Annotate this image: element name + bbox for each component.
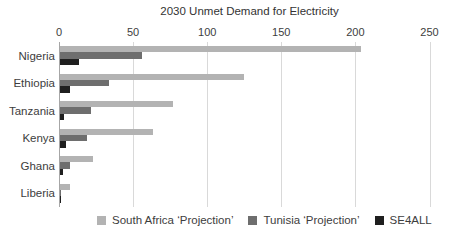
gridline-200 (355, 42, 356, 207)
x-tick-100: 100 (198, 26, 216, 38)
x-tick-0: 0 (56, 26, 62, 38)
bar-nigeria-series-2 (60, 59, 79, 65)
category-label-liberia: Liberia (0, 187, 55, 199)
legend-item-2: SE4ALL (375, 214, 432, 226)
x-tick-250: 250 (420, 26, 438, 38)
x-tick-50: 50 (127, 26, 139, 38)
x-tick-150: 150 (272, 26, 290, 38)
bar-kenya-series-2 (60, 141, 66, 147)
category-label-ghana: Ghana (0, 160, 55, 172)
bar-tanzania-series-1 (60, 107, 91, 113)
category-label-ethiopia: Ethiopia (0, 77, 55, 89)
bar-ghana-series-2 (60, 169, 63, 175)
gridline-150 (281, 42, 282, 207)
bar-liberia-series-2 (60, 196, 61, 202)
bar-liberia-series-0 (60, 184, 70, 190)
gridline-250 (430, 42, 431, 207)
gridline-50 (133, 42, 134, 207)
chart-title: 2030 Unmet Demand for Electricity (59, 5, 440, 17)
x-axis-zero-line (59, 42, 60, 207)
bar-chart: 2030 Unmet Demand for Electricity 050100… (0, 0, 449, 237)
bar-ethiopia-series-2 (60, 86, 70, 92)
legend-item-0: South Africa ‘Projection’ (97, 214, 233, 226)
bar-tanzania-series-2 (60, 114, 64, 120)
legend-label-0: South Africa ‘Projection’ (112, 214, 233, 226)
gridline-100 (207, 42, 208, 207)
category-label-tanzania: Tanzania (0, 105, 55, 117)
legend-swatch-2 (375, 216, 384, 225)
legend-swatch-0 (97, 216, 106, 225)
legend-label-1: Tunisia ‘Projection’ (263, 214, 359, 226)
category-label-kenya: Kenya (0, 132, 55, 144)
legend-item-1: Tunisia ‘Projection’ (248, 214, 359, 226)
x-tick-200: 200 (346, 26, 364, 38)
category-label-nigeria: Nigeria (0, 50, 55, 62)
legend-label-2: SE4ALL (390, 214, 432, 226)
legend: South Africa ‘Projection’Tunisia ‘Projec… (97, 214, 432, 226)
legend-swatch-1 (248, 216, 257, 225)
